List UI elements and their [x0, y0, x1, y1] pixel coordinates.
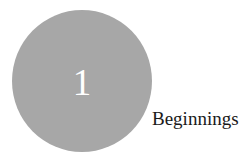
chapter-number: 1	[12, 64, 152, 101]
chapter-number-badge: 1	[12, 10, 152, 152]
chapter-title: Beginnings	[152, 108, 239, 131]
